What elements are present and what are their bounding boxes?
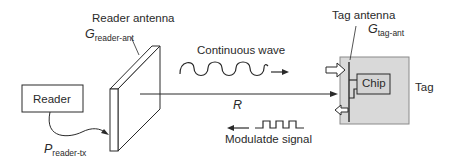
continuous-wave-arrowhead-icon <box>282 69 289 75</box>
distance-arrowhead-icon <box>330 91 338 97</box>
continuous-wave-curve <box>180 62 268 76</box>
modulated-signal-waveform <box>255 121 304 128</box>
reader-antenna-gain-symbol: G <box>85 27 95 41</box>
reader-feed-arrowhead-icon <box>101 129 109 135</box>
tag-antenna-gain-symbol: G <box>368 22 378 36</box>
reader-tx-power: Preader-tx <box>44 143 86 158</box>
modulated-signal-arrowhead-icon <box>227 125 234 131</box>
reader-antenna-gain-subscript: reader-ant <box>95 33 134 43</box>
reader-tx-power-subscript: reader-tx <box>52 148 86 158</box>
reader-antenna-label: Reader antenna <box>92 13 174 25</box>
tag-antenna-label: Tag antenna <box>332 10 395 22</box>
reader-antenna-front-face <box>110 89 118 151</box>
tag-antenna-gain: Gtag-ant <box>368 23 404 38</box>
tag-antenna-gain-subscript: tag-ant <box>378 28 404 38</box>
chip-label: Chip <box>362 78 386 90</box>
tag-antenna-leader-line <box>350 26 356 60</box>
distance-label: R <box>233 99 242 112</box>
tag-label: Tag <box>415 82 434 94</box>
reader-label: Reader <box>33 94 71 106</box>
reader-antenna-gain: Greader-ant <box>85 28 134 43</box>
continuous-wave-label: Continuous wave <box>197 45 285 57</box>
modulated-signal-label: Modulatde signal <box>225 134 312 146</box>
reader-feed-line <box>49 112 106 136</box>
